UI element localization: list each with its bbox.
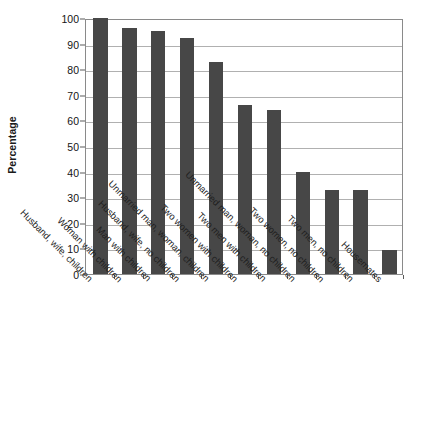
y-tick-label: 30 xyxy=(67,192,79,204)
y-tick-label: 40 xyxy=(67,167,79,179)
y-tick-label: 80 xyxy=(67,64,79,76)
y-tick-label: 90 xyxy=(67,39,79,51)
y-axis-title-label: Percentage xyxy=(6,116,18,174)
y-tick-label: 100 xyxy=(61,13,79,25)
y-axis-title: Percentage xyxy=(0,0,24,290)
y-tick-label: 70 xyxy=(67,90,79,102)
y-tick-label: 50 xyxy=(67,141,79,153)
y-tick-label: 60 xyxy=(67,115,79,127)
bar xyxy=(382,250,396,274)
bar-chart-figure: Percentage 0102030405060708090100 Husban… xyxy=(0,0,445,429)
x-axis-labels: Husband, wife, childrenWoman with childr… xyxy=(0,276,445,429)
